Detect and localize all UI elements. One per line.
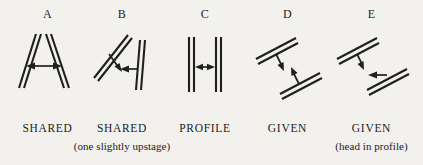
actor-bar-upper-inner [339,43,379,64]
sightline-arrow-e-lower [368,71,387,78]
panel-caption-e: GIVEN [320,122,423,134]
panel-c: C PROFILE [160,0,250,165]
actor-bar-right-inner [136,40,140,90]
actor-bar-upper-inner [258,43,298,64]
panel-letter-c: C [160,7,250,22]
panel-letter-e: E [320,7,423,22]
sightline-arrow-b-right [120,66,137,73]
actor-bar-lower-outer [282,78,322,99]
actor-bar-right-outer [141,40,145,90]
panel-caption-c: PROFILE [160,122,250,134]
diagram-e [320,26,423,108]
panel-e: E [320,0,423,165]
panel-subcaption-e: (head in profile) [320,140,423,152]
sightline-arrow-e-upper [357,54,364,70]
diagram-b-svg [82,26,162,106]
actor-bar-right-inner [46,34,64,88]
sightline-arrow-c [195,64,215,70]
diagram-d-svg [248,26,328,106]
actor-bar-lower-inner [280,73,320,94]
sightline-arrow-d-upper [276,54,284,71]
actor-bar-lower-inner [367,69,407,90]
diagram-e-svg [329,26,415,106]
diagram-c-svg [174,26,236,106]
figure-root: A SHARED [0,0,423,165]
actor-bar-left-inner [98,38,132,81]
sightline-arrow-d-lower [291,67,299,84]
diagram-c [160,26,250,108]
